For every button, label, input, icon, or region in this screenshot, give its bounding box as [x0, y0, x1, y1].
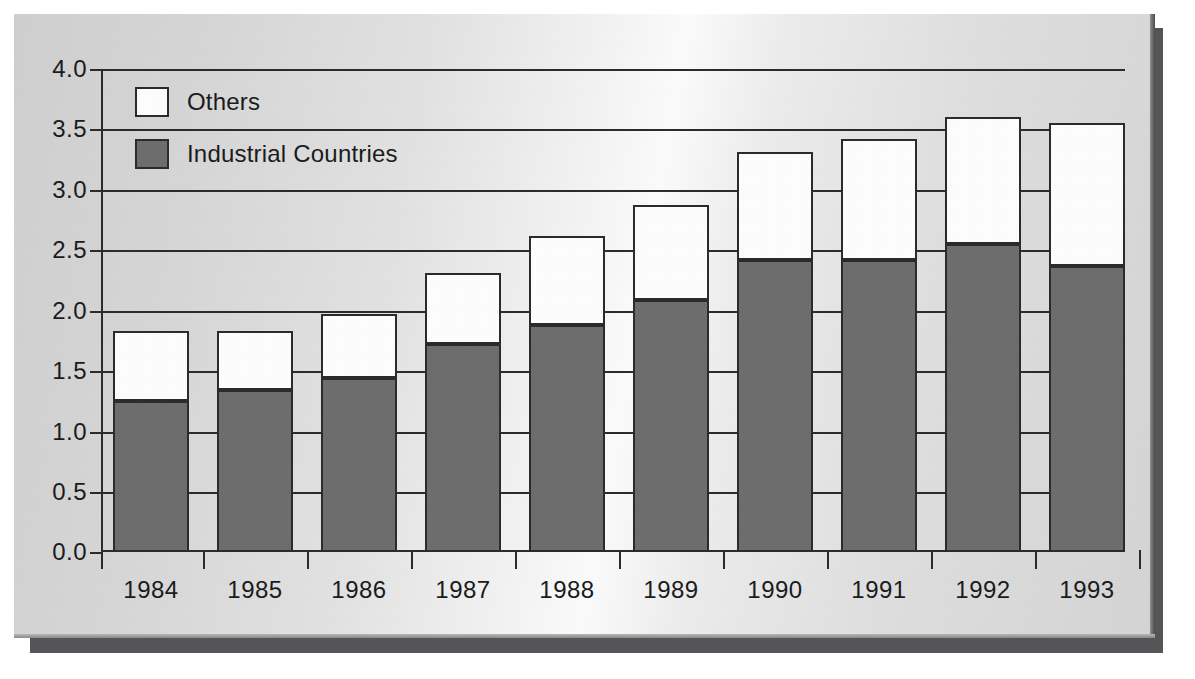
x-tick-1987	[515, 550, 517, 569]
y-tick-label-0-5: 0.5	[52, 478, 87, 506]
legend-swatch-industrial-countries-icon	[135, 139, 169, 169]
gridline-4-0	[101, 69, 1125, 71]
chart-screenshot: 4.0 3.5 3.0 2.5 2.0 1.5 1.0 0.5 0.0 1984…	[0, 0, 1195, 679]
y-tick-4-0	[90, 69, 101, 71]
y-tick-label-1-0: 1.0	[52, 418, 87, 446]
x-tick-1992	[1035, 550, 1037, 569]
x-tick-label-1987: 1987	[435, 576, 490, 604]
bar-1987[interactable]	[425, 273, 501, 552]
x-tick-label-1989: 1989	[643, 576, 698, 604]
stacked-bar-chart-panel: 4.0 3.5 3.0 2.5 2.0 1.5 1.0 0.5 0.0 1984…	[14, 14, 1155, 638]
y-tick-3-5	[90, 129, 101, 131]
bar-segment-industrial-1992[interactable]	[945, 244, 1021, 552]
panel-right-edge	[1150, 14, 1155, 638]
bar-segment-others-1992[interactable]	[945, 117, 1021, 244]
y-tick-0-0	[90, 552, 101, 554]
x-tick-1993	[1139, 550, 1141, 569]
bar-1985[interactable]	[217, 331, 293, 552]
bar-1992[interactable]	[945, 117, 1021, 552]
bar-segment-others-1985[interactable]	[217, 331, 293, 390]
y-tick-2-0	[90, 311, 101, 313]
x-tick-label-1993: 1993	[1059, 576, 1114, 604]
x-tick-1991	[931, 550, 933, 569]
bar-segment-others-1987[interactable]	[425, 273, 501, 344]
bar-segment-industrial-1989[interactable]	[633, 300, 709, 552]
bar-segment-industrial-1987[interactable]	[425, 344, 501, 552]
bar-1988[interactable]	[529, 236, 605, 552]
x-tick-label-1991: 1991	[851, 576, 906, 604]
bar-segment-others-1993[interactable]	[1049, 123, 1125, 265]
y-tick-label-4-0: 4.0	[52, 55, 87, 83]
bar-segment-others-1989[interactable]	[633, 205, 709, 299]
y-tick-1-5	[90, 371, 101, 373]
bar-segment-others-1986[interactable]	[321, 314, 397, 378]
x-tick-1988	[619, 550, 621, 569]
x-tick-origin	[101, 550, 103, 569]
bar-segment-others-1984[interactable]	[113, 331, 189, 401]
y-tick-label-2-5: 2.5	[52, 236, 87, 264]
legend-label-industrial-countries: Industrial Countries	[187, 140, 398, 168]
x-tick-1990	[827, 550, 829, 569]
bar-1990[interactable]	[737, 152, 813, 552]
x-tick-label-1985: 1985	[227, 576, 282, 604]
x-tick-1985	[307, 550, 309, 569]
y-tick-0-5	[90, 492, 101, 494]
legend-swatch-others-icon	[135, 87, 169, 117]
y-tick-label-2-0: 2.0	[52, 297, 87, 325]
y-tick-3-0	[90, 190, 101, 192]
x-tick-label-1990: 1990	[747, 576, 802, 604]
bar-1989[interactable]	[633, 205, 709, 552]
legend-item-others[interactable]: Others	[135, 76, 398, 128]
x-axis-line	[101, 550, 1125, 552]
bar-1986[interactable]	[321, 314, 397, 552]
bar-1984[interactable]	[113, 331, 189, 552]
bar-segment-industrial-1993[interactable]	[1049, 266, 1125, 552]
bar-segment-others-1988[interactable]	[529, 236, 605, 325]
x-tick-1989	[723, 550, 725, 569]
bar-segment-industrial-1984[interactable]	[113, 401, 189, 552]
y-tick-label-1-5: 1.5	[52, 357, 87, 385]
bar-segment-industrial-1991[interactable]	[841, 260, 917, 552]
bar-segment-industrial-1985[interactable]	[217, 390, 293, 552]
y-tick-label-0-0: 0.0	[52, 538, 87, 566]
y-axis-line	[101, 69, 103, 552]
bar-1993[interactable]	[1049, 123, 1125, 552]
y-tick-label-3-5: 3.5	[52, 115, 87, 143]
bar-segment-industrial-1990[interactable]	[737, 260, 813, 552]
bar-segment-industrial-1986[interactable]	[321, 378, 397, 552]
x-tick-label-1986: 1986	[331, 576, 386, 604]
x-tick-label-1992: 1992	[955, 576, 1010, 604]
x-tick-1986	[411, 550, 413, 569]
bar-1991[interactable]	[841, 139, 917, 552]
x-tick-label-1988: 1988	[539, 576, 594, 604]
chart-legend: Others Industrial Countries	[135, 76, 398, 180]
y-tick-label-3-0: 3.0	[52, 176, 87, 204]
x-tick-label-1984: 1984	[123, 576, 178, 604]
bar-segment-industrial-1988[interactable]	[529, 325, 605, 552]
bar-segment-others-1991[interactable]	[841, 139, 917, 260]
x-tick-1984	[203, 550, 205, 569]
legend-item-industrial-countries[interactable]: Industrial Countries	[135, 128, 398, 180]
y-tick-1-0	[90, 432, 101, 434]
y-tick-2-5	[90, 250, 101, 252]
legend-label-others: Others	[187, 88, 260, 116]
panel-bottom-edge	[14, 634, 1155, 638]
bar-segment-others-1990[interactable]	[737, 152, 813, 259]
